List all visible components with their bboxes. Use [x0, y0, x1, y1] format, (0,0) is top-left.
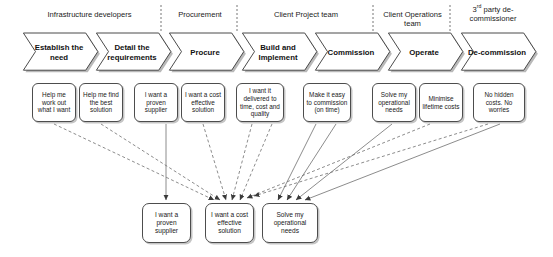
- chevron-body: [23, 33, 97, 70]
- stage-procure[interactable]: Procure: [168, 33, 248, 73]
- chevron-shape: [241, 33, 321, 73]
- connector-edges: [54, 124, 500, 200]
- consolidated-proven-supplier[interactable]: I want a proven supplier: [142, 203, 191, 243]
- stage-build-and-implement[interactable]: Build and Implement: [241, 33, 321, 73]
- lane-client-project-team: Client Project team: [239, 10, 373, 19]
- need-cost-effective-solution[interactable]: I want a cost effective solution: [181, 83, 225, 122]
- connector-need-help-me-work-out-to-consolidated-cost-effective-solution: [54, 124, 214, 200]
- connector-need-easy-to-commission-to-consolidated-solve-operational-needs: [287, 124, 336, 200]
- chevron-body: [96, 33, 170, 70]
- connector-need-no-hidden-costs-to-consolidated-cost-effective-solution: [254, 124, 488, 196]
- connector-need-delivered-to-time-cost-quality-to-consolidated-cost-effective-solution: [232, 124, 252, 200]
- chevron-body: [315, 33, 389, 70]
- need-easy-to-commission[interactable]: Make it easy to commission (on time): [303, 83, 351, 122]
- connector-need-delivered-to-time-cost-quality-to-consolidated-cost-effective-solution: [240, 124, 272, 200]
- consolidated-cost-effective-solution[interactable]: I want a cost effective solution: [205, 203, 254, 243]
- diagram-canvas: Infrastructure developersProcurementClie…: [0, 0, 553, 257]
- chevron-body: [461, 33, 535, 70]
- chevron-shape: [387, 33, 467, 73]
- need-minimise-lifetime-costs[interactable]: Minimise lifetime costs: [419, 83, 463, 122]
- lane-procurement: Procurement: [163, 10, 237, 19]
- chevron-shape: [22, 33, 102, 73]
- consolidated-solve-operational-needs[interactable]: Solve my operational needs: [262, 203, 318, 243]
- stage-commission[interactable]: Commission: [314, 33, 394, 73]
- need-solve-operational-needs[interactable]: Solve my operational needs: [372, 83, 416, 122]
- stage-operate[interactable]: Operate: [387, 33, 467, 73]
- connector-need-cost-effective-solution-to-consolidated-cost-effective-solution: [203, 124, 226, 200]
- stage-detail-the-requirements[interactable]: Detail the requirements: [95, 33, 175, 73]
- stage-establish-the-need[interactable]: Establish the need: [22, 33, 102, 73]
- chevron-shape: [314, 33, 394, 73]
- need-help-me-work-out[interactable]: Help me work out what I want: [32, 83, 76, 122]
- chevron-shape: [95, 33, 175, 73]
- need-proven-supplier[interactable]: I want a proven supplier: [134, 83, 178, 122]
- need-help-me-find-best-solution[interactable]: Help me find the best solution: [79, 83, 123, 122]
- lane-infrastructure-developers: Infrastructure developers: [18, 10, 161, 19]
- chevron-shape: [460, 33, 540, 73]
- need-delivered-to-time-cost-quality[interactable]: I want it delivered to time, cost and qu…: [236, 83, 284, 122]
- lane-third-party-decommissioner: 3rd party de-commissioner: [452, 5, 534, 24]
- connector-need-help-me-find-best-solution-to-consolidated-cost-effective-solution: [101, 124, 220, 200]
- stage-de-commission[interactable]: De-commission: [460, 33, 540, 73]
- chevron-body: [388, 33, 462, 70]
- lane-client-operations-team: Client Operations team: [375, 10, 450, 29]
- need-no-hidden-costs[interactable]: No hidden costs. No worries: [473, 83, 525, 122]
- chevron-body: [169, 33, 243, 70]
- chevron-body: [242, 33, 316, 70]
- chevron-shape: [168, 33, 248, 73]
